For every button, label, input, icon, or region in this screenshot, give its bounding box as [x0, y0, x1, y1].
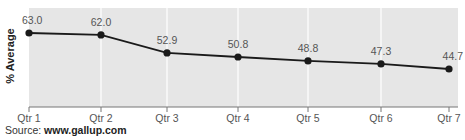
- source-prefix: Source:: [5, 124, 44, 136]
- data-label: 48.8: [298, 42, 319, 54]
- x-tick-label: Qtr 7: [437, 112, 460, 124]
- data-label: 50.8: [228, 38, 249, 50]
- data-point: [25, 29, 32, 36]
- data-point: [377, 60, 384, 67]
- x-tick-label: Qtr 3: [155, 112, 178, 124]
- x-tick-label: Qtr 4: [226, 112, 249, 124]
- data-label: 47.3: [371, 45, 392, 57]
- x-tick-label: Qtr 6: [369, 112, 392, 124]
- data-label: 63.0: [22, 14, 43, 26]
- x-tick-label: Qtr 5: [296, 112, 319, 124]
- x-axis-tick-labels: Qtr 1Qtr 2Qtr 3Qtr 4Qtr 5Qtr 6Qtr 7: [17, 112, 460, 124]
- data-point: [97, 31, 104, 38]
- data-point: [163, 49, 170, 56]
- source-note: Source: www.gallup.com: [5, 124, 127, 136]
- data-point: [304, 57, 311, 64]
- data-label: 44.7: [443, 50, 464, 62]
- line-chart: Qtr 1Qtr 2Qtr 3Qtr 4Qtr 5Qtr 6Qtr 7 63.0…: [0, 0, 465, 140]
- data-point: [234, 53, 241, 60]
- x-tick-label: Qtr 1: [17, 112, 40, 124]
- source-url: www.gallup.com: [44, 124, 126, 136]
- data-label: 52.9: [157, 34, 178, 46]
- data-label: 62.0: [91, 16, 112, 28]
- x-tick-label: Qtr 2: [89, 112, 112, 124]
- y-axis-label: % Average: [4, 28, 16, 83]
- data-point: [445, 65, 452, 72]
